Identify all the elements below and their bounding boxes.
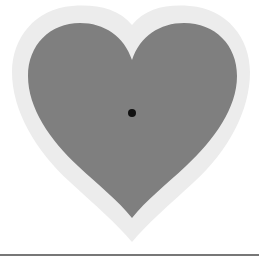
heart-figure [0, 0, 259, 262]
baseline-divider [0, 254, 259, 256]
center-dot [128, 109, 136, 117]
